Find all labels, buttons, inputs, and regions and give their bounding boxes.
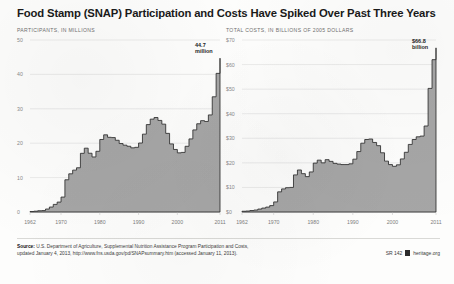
x-tick-label: 1970 — [268, 219, 280, 225]
x-tick-label: 1962 — [236, 219, 248, 225]
publisher-site[interactable]: heritage.org — [413, 250, 440, 256]
costs-area-chart — [226, 38, 438, 216]
x-tick-label: 1990 — [347, 219, 359, 225]
area-series — [30, 58, 220, 212]
plot-area-participants — [17, 38, 222, 216]
annotation-participants-peak: 44.7 million — [195, 42, 213, 55]
report-id: SR 142 — [386, 250, 403, 256]
page-title: Food Stamp (SNAP) Participation and Cost… — [17, 7, 441, 19]
source-label: Source: — [17, 244, 35, 249]
source-note: Source: U.S. Department of Agriculture, … — [17, 243, 317, 257]
annotation-unit: million — [195, 48, 213, 54]
infographic-page: Food Stamp (SNAP) Participation and Cost… — [0, 0, 454, 284]
annotation-value: $66.8 — [412, 38, 426, 44]
chart-subtitle-costs: TOTAL COSTS, IN BILLIONS OF 2005 DOLLARS — [226, 27, 353, 33]
x-tick-label: 1980 — [307, 219, 319, 225]
x-axis-labels-costs: 196219701980199020002011 — [226, 219, 438, 229]
annotation-value: 44.7 — [195, 42, 206, 48]
x-tick-label: 2000 — [172, 219, 184, 225]
x-tick-label: 1962 — [24, 219, 36, 225]
chart-panel-costs: TOTAL COSTS, IN BILLIONS OF 2005 DOLLARS… — [226, 27, 438, 232]
plot-area-costs — [226, 38, 438, 216]
x-tick-label: 2011 — [430, 219, 441, 225]
x-tick-label: 1980 — [94, 219, 106, 225]
x-axis-labels-participants: 196219701980199020002011 — [17, 219, 222, 229]
annotation-unit: billion — [412, 44, 428, 50]
chart-subtitle-participants: PARTICIPANTS, IN MILLIONS — [17, 27, 95, 33]
heritage-logo-icon — [405, 250, 410, 256]
source-line-1: U.S. Department of Agriculture, Suppleme… — [35, 244, 249, 249]
source-line-2: updated January 4, 2013, http://www.fns.… — [17, 251, 237, 256]
x-tick-label: 2000 — [387, 219, 399, 225]
chart-panel-participants: PARTICIPANTS, IN MILLIONS 01020304050 19… — [17, 27, 222, 232]
x-tick-label: 1970 — [55, 219, 67, 225]
x-tick-label: 1990 — [133, 219, 145, 225]
publisher-credit: SR 142 heritage.org — [386, 250, 440, 256]
participants-area-chart — [17, 38, 222, 216]
footer-divider — [17, 238, 440, 239]
annotation-costs-peak: $66.8 billion — [412, 38, 428, 51]
x-tick-label: 2011 — [214, 219, 225, 225]
